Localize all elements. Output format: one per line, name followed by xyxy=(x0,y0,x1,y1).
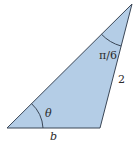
triangle xyxy=(7,4,132,128)
base-label: b xyxy=(50,130,57,142)
theta-label: θ xyxy=(45,107,52,120)
top-angle-label: π/6 xyxy=(99,49,117,62)
triangle-diagram: π/6 θ 2 b xyxy=(0,0,138,142)
side-length-label: 2 xyxy=(118,73,125,86)
